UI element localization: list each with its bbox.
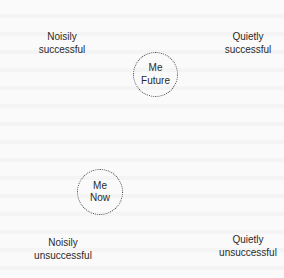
quadrant-label-line: unsuccessful — [13, 250, 113, 263]
quadrant-label-line: successful — [198, 44, 284, 57]
me-future-node: Me Future — [133, 52, 178, 97]
quadrant-label-quietly-unsuccessful: Quietly unsuccessful — [198, 234, 284, 259]
quadrant-label-line: unsuccessful — [198, 247, 284, 260]
quadrant-label-quietly-successful: Quietly successful — [198, 31, 284, 56]
quadrant-label-line: Quietly — [198, 234, 284, 247]
me-now-node: Me Now — [77, 169, 123, 215]
quadrant-label-line: Noisily — [13, 237, 113, 250]
node-label-line: Me — [93, 180, 107, 193]
quadrant-label-line: Noisily — [12, 31, 112, 44]
quadrant-label-line: Quietly — [198, 31, 284, 44]
node-label-line: Future — [141, 75, 170, 88]
quadrant-label-noisily-successful: Noisily successful — [12, 31, 112, 56]
node-label-line: Now — [90, 192, 110, 205]
quadrant-label-line: successful — [12, 44, 112, 57]
node-label-line: Me — [149, 62, 163, 75]
quadrant-label-noisily-unsuccessful: Noisily unsuccessful — [13, 237, 113, 262]
